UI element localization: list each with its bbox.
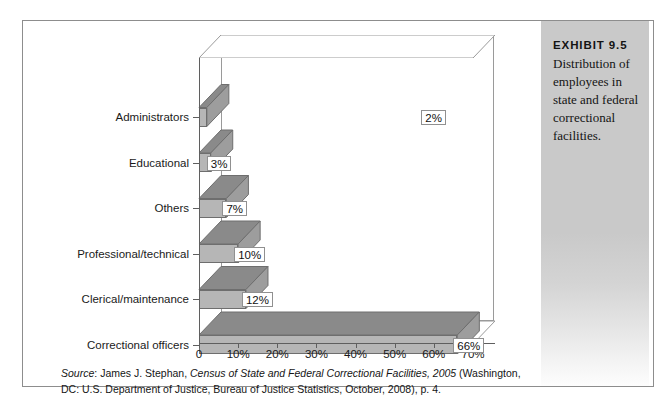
bar-prism-0 <box>23 21 541 388</box>
x-axis <box>199 343 495 344</box>
y-tick-3 <box>193 254 200 255</box>
bar-chart: 010%20%30%40%50%60%70% Correctional offi… <box>23 21 541 388</box>
source-note-title: Census of State and Federal Correctional… <box>190 367 456 379</box>
data-label-2: 7% <box>222 201 247 216</box>
category-label-4: Clerical/maintenance <box>82 293 189 305</box>
category-label-2: Others <box>154 202 189 214</box>
source-note-author: James J. Stephan, <box>100 367 190 379</box>
exhibit-caption-inner: EXHIBIT 9.5 Distribution of employees in… <box>553 39 643 145</box>
x-tick-label-1: 10% <box>227 348 250 360</box>
data-label-3: 10% <box>234 247 265 262</box>
data-label-0: 2% <box>421 110 446 125</box>
category-label-5: Correctional officers <box>87 339 189 351</box>
x-tick-label-3: 30% <box>305 348 328 360</box>
source-note: Source: James J. Stephan, Census of Stat… <box>61 366 529 398</box>
y-axis <box>199 58 200 344</box>
category-label-3: Professional/technical <box>77 248 189 260</box>
data-label-5: 66% <box>453 338 484 353</box>
x-tick-label-0: 0 <box>196 348 202 360</box>
x-tick-label-4: 40% <box>344 348 367 360</box>
x-tick-label-5: 50% <box>383 348 406 360</box>
y-tick-5 <box>193 345 200 346</box>
x-tick-label-6: 60% <box>422 348 445 360</box>
y-tick-0 <box>193 117 200 118</box>
y-tick-1 <box>193 163 200 164</box>
category-label-0: Administrators <box>116 111 190 123</box>
bar-front-0 <box>199 108 207 127</box>
x-tick-label-2: 20% <box>266 348 289 360</box>
data-label-4: 12% <box>242 292 273 307</box>
y-tick-2 <box>193 208 200 209</box>
exhibit-caption-panel: EXHIBIT 9.5 Distribution of employees in… <box>541 21 649 386</box>
source-note-label: Source <box>61 367 94 379</box>
data-label-1: 3% <box>207 156 232 171</box>
exhibit-number: EXHIBIT 9.5 <box>553 39 643 51</box>
exhibit-caption-text: Distribution of employees in state and f… <box>553 55 643 145</box>
exhibit-figure-frame: 010%20%30%40%50%60%70% Correctional offi… <box>22 20 654 387</box>
bar-0 <box>23 21 541 388</box>
y-tick-4 <box>193 299 200 300</box>
category-label-1: Educational <box>129 157 189 169</box>
